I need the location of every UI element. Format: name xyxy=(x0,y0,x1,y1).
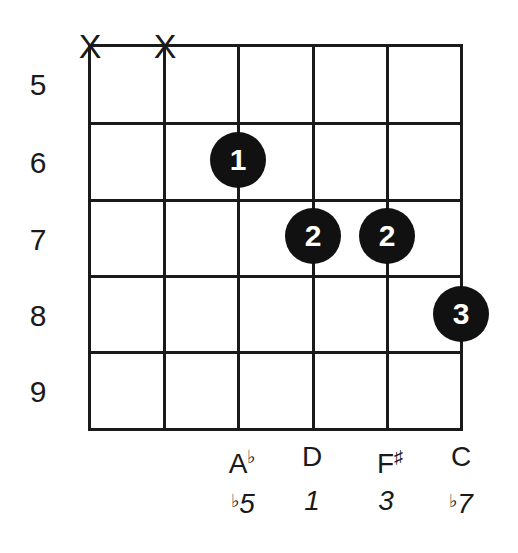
muted-string-icon: X xyxy=(79,29,102,63)
note-name: D xyxy=(302,442,322,472)
fret-line xyxy=(88,44,463,47)
interval-label: 1 xyxy=(304,486,320,516)
note-letter: D xyxy=(302,441,322,472)
finger-dot: 2 xyxy=(285,208,341,264)
fret-line xyxy=(88,122,463,125)
fret-line xyxy=(88,351,463,354)
string-6-line xyxy=(88,44,91,431)
flat-icon: ♭ xyxy=(247,447,255,467)
finger-dot: 2 xyxy=(359,208,415,264)
string-1-line xyxy=(460,44,463,431)
note-name: A♭ xyxy=(229,442,256,479)
flat-icon: ♭ xyxy=(449,491,457,511)
note-letter: A xyxy=(229,448,248,479)
fret-line xyxy=(88,428,463,431)
flat-icon: ♭ xyxy=(231,491,239,511)
string-5-line xyxy=(163,44,166,431)
sharp-icon: ♯ xyxy=(394,447,403,467)
interval-number: 5 xyxy=(239,488,255,519)
fret-number: 7 xyxy=(18,225,58,255)
interval-number: 1 xyxy=(304,485,320,516)
interval-number: 7 xyxy=(457,488,473,519)
finger-dot: 3 xyxy=(433,286,489,342)
interval-number: 3 xyxy=(378,485,394,516)
fret-number: 8 xyxy=(18,301,58,331)
fret-number: 6 xyxy=(18,148,58,178)
fret-number: 5 xyxy=(18,70,58,100)
muted-string-icon: X xyxy=(154,29,177,63)
fret-number: 9 xyxy=(18,377,58,407)
interval-label: ♭7 xyxy=(449,486,473,519)
note-name: C xyxy=(451,442,471,472)
note-letter: C xyxy=(451,441,471,472)
interval-label: ♭5 xyxy=(231,486,255,519)
note-letter: F xyxy=(377,448,394,479)
fret-line xyxy=(88,199,463,202)
fret-line xyxy=(88,275,463,278)
string-4-line xyxy=(237,44,240,431)
interval-label: 3 xyxy=(378,486,394,516)
finger-dot: 1 xyxy=(210,132,266,188)
note-name: F♯ xyxy=(377,442,403,479)
